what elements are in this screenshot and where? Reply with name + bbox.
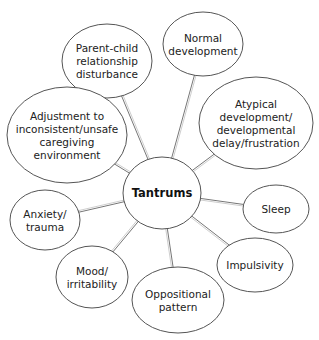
node-label-line: Normal — [184, 32, 222, 44]
node-label-line: development/ — [220, 111, 293, 123]
node-sleep: Sleep — [243, 185, 309, 233]
node-label-line: trauma — [26, 221, 64, 233]
node-label-line: Sleep — [261, 203, 291, 215]
node-oppositional-pattern: Oppositionalpattern — [132, 267, 224, 333]
node-label-line: Impulsivity — [226, 259, 283, 271]
node-label-line: development — [168, 45, 237, 57]
center-node-tantrums: Tantrums — [123, 157, 201, 229]
node-label-line: Atypical — [235, 98, 277, 110]
node-label-line: Parent-child — [76, 42, 138, 54]
node-label-line: disturbance — [76, 68, 138, 80]
node-adjustment: Adjustment toinconsistent/unsafecaregivi… — [7, 87, 127, 183]
node-label-line: pattern — [159, 301, 198, 313]
node-parent-child: Parent-childrelationshipdisturbance — [62, 24, 152, 98]
node-anxiety-trauma: Anxiety/trauma — [10, 190, 80, 250]
tantrums-mind-map: Parent-childrelationshipdisturbanceNorma… — [0, 0, 319, 340]
node-atypical-development: Atypicaldevelopment/developmentaldelay/f… — [199, 77, 313, 169]
node-label-line: inconsistent/unsafe — [16, 123, 119, 135]
node-label-line: Mood/ — [76, 265, 109, 277]
node-label-line: Adjustment to — [30, 110, 104, 122]
node-normal-development: Normaldevelopment — [163, 12, 243, 76]
node-mood-irritability: Mood/irritability — [56, 246, 128, 308]
node-label-line: irritability — [67, 278, 118, 290]
node-label-line: Oppositional — [145, 288, 211, 300]
center-label: Tantrums — [132, 186, 193, 200]
node-impulsivity: Impulsivity — [217, 238, 293, 292]
node-label-line: developmental — [217, 124, 296, 136]
node-label-line: Anxiety/ — [23, 208, 67, 220]
node-label-line: environment — [34, 149, 101, 161]
node-label-line: delay/frustration — [212, 137, 299, 149]
node-label-line: relationship — [76, 55, 138, 67]
node-label-line: caregiving — [40, 136, 95, 148]
